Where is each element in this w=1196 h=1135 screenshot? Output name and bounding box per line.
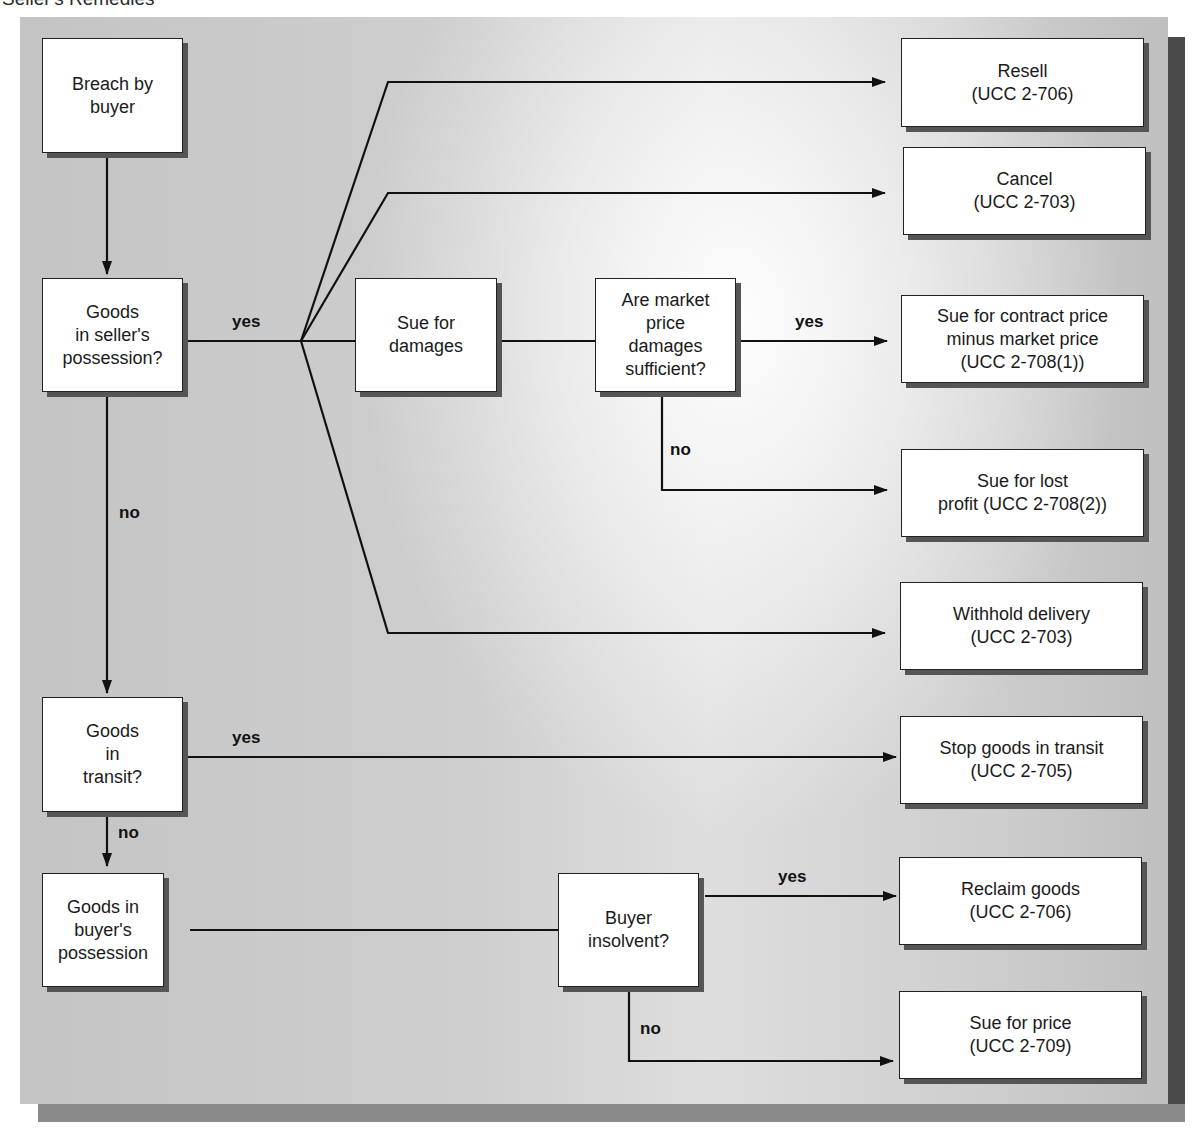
- arrow-market-no: [662, 392, 887, 490]
- label-insolvent-yes: yes: [778, 867, 806, 887]
- remedy-resell: Resell (UCC 2-706): [901, 38, 1144, 127]
- remedy-cancel: Cancel (UCC 2-703): [903, 147, 1146, 235]
- remedy-label: Stop goods in transit (UCC 2-705): [939, 737, 1103, 783]
- node-label: Goods in buyer's possession: [58, 896, 148, 965]
- remedy-contract-minus-market: Sue for contract price minus market pric…: [901, 295, 1144, 383]
- label-market-no: no: [670, 440, 691, 460]
- arrow-insolvent-no: [629, 988, 893, 1061]
- node-goods-in-buyer-possession: Goods in buyer's possession: [42, 873, 164, 987]
- label-seller-no: no: [119, 503, 140, 523]
- node-label: Are market price damages sufficient?: [621, 289, 709, 381]
- remedy-label: Sue for lost profit (UCC 2-708(2)): [938, 470, 1107, 516]
- remedy-label: Cancel (UCC 2-703): [973, 168, 1075, 214]
- node-label: Sue for damages: [389, 312, 463, 358]
- node-buyer-insolvent: Buyer insolvent?: [558, 873, 699, 987]
- remedy-lost-profit: Sue for lost profit (UCC 2-708(2)): [901, 449, 1144, 537]
- remedy-label: Sue for contract price minus market pric…: [937, 305, 1108, 374]
- label-transit-yes: yes: [232, 728, 260, 748]
- node-goods-in-transit: Goods in transit?: [42, 697, 183, 812]
- remedy-stop-goods-in-transit: Stop goods in transit (UCC 2-705): [900, 716, 1143, 804]
- node-breach-by-buyer: Breach by buyer: [42, 38, 183, 153]
- label-insolvent-no: no: [640, 1019, 661, 1039]
- node-label: Breach by buyer: [72, 73, 153, 119]
- node-label: Buyer insolvent?: [588, 907, 669, 953]
- node-goods-in-seller-possession: Goods in seller's possession?: [42, 278, 183, 392]
- remedy-label: Sue for price (UCC 2-709): [969, 1012, 1071, 1058]
- node-market-price-sufficient: Are market price damages sufficient?: [595, 278, 736, 392]
- label-transit-no: no: [118, 823, 139, 843]
- node-label: Goods in seller's possession?: [62, 301, 162, 370]
- remedy-label: Reclaim goods (UCC 2-706): [961, 878, 1080, 924]
- label-seller-yes: yes: [232, 312, 260, 332]
- node-sue-for-damages: Sue for damages: [355, 278, 497, 392]
- remedy-withhold-delivery: Withhold delivery (UCC 2-703): [900, 582, 1143, 670]
- remedy-label: Resell (UCC 2-706): [971, 60, 1073, 106]
- remedy-sue-for-price: Sue for price (UCC 2-709): [899, 991, 1142, 1079]
- remedy-label: Withhold delivery (UCC 2-703): [953, 603, 1090, 649]
- node-label: Goods in transit?: [83, 720, 142, 789]
- label-market-yes: yes: [795, 312, 823, 332]
- remedy-reclaim-goods: Reclaim goods (UCC 2-706): [899, 857, 1142, 945]
